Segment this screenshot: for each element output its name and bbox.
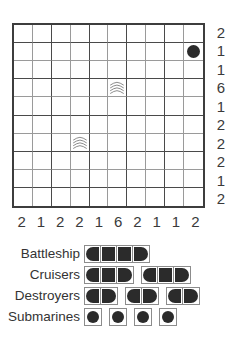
grid-cell[interactable] xyxy=(33,61,52,79)
grid-cell[interactable] xyxy=(127,116,146,134)
grid-cell[interactable] xyxy=(71,97,90,115)
grid-cell[interactable] xyxy=(90,43,109,61)
grid-cell[interactable] xyxy=(184,61,203,79)
grid-cell[interactable] xyxy=(52,116,71,134)
grid-cell[interactable] xyxy=(165,152,184,170)
grid-cell[interactable] xyxy=(127,188,146,206)
grid-cell[interactable] xyxy=(184,43,203,61)
grid-cell[interactable] xyxy=(146,152,165,170)
grid-cell[interactable] xyxy=(127,97,146,115)
grid-cell[interactable] xyxy=(71,43,90,61)
grid-cell[interactable] xyxy=(184,97,203,115)
grid-cell[interactable] xyxy=(184,188,203,206)
grid-cell[interactable] xyxy=(90,61,109,79)
grid-cell[interactable] xyxy=(14,116,33,134)
grid-cell[interactable] xyxy=(127,25,146,43)
grid-cell[interactable] xyxy=(90,25,109,43)
grid-cell[interactable] xyxy=(52,43,71,61)
grid-cell[interactable] xyxy=(71,61,90,79)
grid-cell[interactable] xyxy=(165,116,184,134)
grid-cell[interactable] xyxy=(33,43,52,61)
grid-cell[interactable] xyxy=(108,188,127,206)
grid-cell[interactable] xyxy=(52,97,71,115)
grid-cell[interactable] xyxy=(33,188,52,206)
grid-cell[interactable] xyxy=(108,152,127,170)
grid-cell[interactable] xyxy=(90,116,109,134)
grid-cell[interactable] xyxy=(184,170,203,188)
grid-cell[interactable] xyxy=(108,116,127,134)
grid-cell[interactable] xyxy=(33,116,52,134)
grid-cell[interactable] xyxy=(14,97,33,115)
grid-cell[interactable] xyxy=(165,188,184,206)
grid-cell[interactable] xyxy=(127,43,146,61)
grid-cell[interactable] xyxy=(165,134,184,152)
grid-cell[interactable] xyxy=(71,134,90,152)
grid-cell[interactable] xyxy=(14,43,33,61)
grid-cell[interactable] xyxy=(52,152,71,170)
grid-cell[interactable] xyxy=(52,170,71,188)
grid-cell[interactable] xyxy=(165,170,184,188)
grid-cell[interactable] xyxy=(14,25,33,43)
grid-cell[interactable] xyxy=(90,134,109,152)
grid-cell[interactable] xyxy=(165,25,184,43)
grid-cell[interactable] xyxy=(146,97,165,115)
grid-cell[interactable] xyxy=(127,79,146,97)
grid-cell[interactable] xyxy=(108,170,127,188)
grid-cell[interactable] xyxy=(146,61,165,79)
grid-cell[interactable] xyxy=(146,188,165,206)
grid-cell[interactable] xyxy=(127,152,146,170)
grid-cell[interactable] xyxy=(71,170,90,188)
grid-cell[interactable] xyxy=(108,61,127,79)
grid-cell[interactable] xyxy=(165,61,184,79)
grid-cell[interactable] xyxy=(165,97,184,115)
grid-cell[interactable] xyxy=(108,134,127,152)
grid-cell[interactable] xyxy=(146,170,165,188)
grid-cell[interactable] xyxy=(33,170,52,188)
grid-cell[interactable] xyxy=(33,79,52,97)
grid-cell[interactable] xyxy=(33,152,52,170)
grid-cell[interactable] xyxy=(52,134,71,152)
grid-cell[interactable] xyxy=(184,116,203,134)
grid-cell[interactable] xyxy=(146,25,165,43)
grid-cell[interactable] xyxy=(71,152,90,170)
grid-cell[interactable] xyxy=(52,188,71,206)
grid-cell[interactable] xyxy=(184,134,203,152)
grid-cell[interactable] xyxy=(52,61,71,79)
grid-cell[interactable] xyxy=(71,116,90,134)
grid-cell[interactable] xyxy=(146,134,165,152)
grid-cell[interactable] xyxy=(165,43,184,61)
grid-cell[interactable] xyxy=(90,152,109,170)
grid-cell[interactable] xyxy=(146,116,165,134)
grid-cell[interactable] xyxy=(14,188,33,206)
grid-cell[interactable] xyxy=(165,79,184,97)
grid-cell[interactable] xyxy=(184,152,203,170)
grid-cell[interactable] xyxy=(127,170,146,188)
grid-cell[interactable] xyxy=(108,43,127,61)
grid-cell[interactable] xyxy=(52,79,71,97)
grid-cell[interactable] xyxy=(71,79,90,97)
grid-cell[interactable] xyxy=(90,188,109,206)
grid-cell[interactable] xyxy=(14,152,33,170)
grid-cell[interactable] xyxy=(127,61,146,79)
grid-cell[interactable] xyxy=(90,97,109,115)
grid-cell[interactable] xyxy=(108,25,127,43)
grid-cell[interactable] xyxy=(108,97,127,115)
grid-cell[interactable] xyxy=(33,25,52,43)
grid-cell[interactable] xyxy=(146,43,165,61)
grid-cell[interactable] xyxy=(52,25,71,43)
grid-cell[interactable] xyxy=(33,97,52,115)
grid-cell[interactable] xyxy=(71,25,90,43)
grid-cell[interactable] xyxy=(108,79,127,97)
puzzle-grid[interactable] xyxy=(12,23,205,208)
grid-cell[interactable] xyxy=(71,188,90,206)
grid-cell[interactable] xyxy=(184,79,203,97)
grid-cell[interactable] xyxy=(14,134,33,152)
grid-cell[interactable] xyxy=(14,79,33,97)
grid-cell[interactable] xyxy=(184,25,203,43)
grid-cell[interactable] xyxy=(14,61,33,79)
grid-cell[interactable] xyxy=(33,134,52,152)
grid-cell[interactable] xyxy=(127,134,146,152)
grid-cell[interactable] xyxy=(146,79,165,97)
grid-cell[interactable] xyxy=(90,79,109,97)
grid-cell[interactable] xyxy=(14,170,33,188)
